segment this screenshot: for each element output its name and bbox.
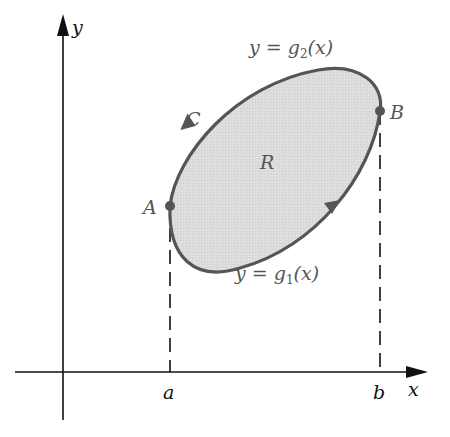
tick-label-b: b <box>373 383 385 402</box>
lower-curve-prefix: y = g <box>235 262 286 284</box>
point-b <box>375 106 385 116</box>
figure: y x a b A B C R y = g2(x) y = g1(x) <box>0 0 450 437</box>
diagram-canvas <box>0 0 450 437</box>
lower-curve-subscript: 1 <box>286 273 294 287</box>
upper-curve-prefix: y = g <box>249 36 300 58</box>
x-axis-label: x <box>408 380 419 399</box>
x-axis-arrow-icon <box>406 366 428 378</box>
upper-curve-subscript: 2 <box>300 47 308 61</box>
region-r <box>170 68 381 272</box>
upper-curve-label: y = g2(x) <box>249 38 333 60</box>
y-axis-arrow-icon <box>57 14 69 36</box>
point-a <box>165 201 175 211</box>
point-b-label: B <box>390 103 404 122</box>
lower-curve-suffix: (x) <box>294 262 320 284</box>
lower-curve-label: y = g1(x) <box>235 264 319 286</box>
tick-label-a: a <box>163 383 174 402</box>
upper-curve-suffix: (x) <box>308 36 334 58</box>
curve-c-label: C <box>186 110 201 129</box>
point-a-label: A <box>143 198 157 217</box>
y-axis-label: y <box>72 18 83 37</box>
region-r-label: R <box>260 153 274 172</box>
